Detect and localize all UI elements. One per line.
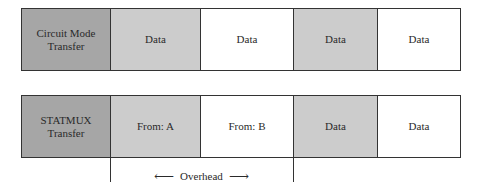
frame-cell: Data	[294, 9, 378, 70]
frame-cell: Data	[378, 9, 460, 70]
label-line: STATMUX	[40, 114, 91, 126]
row-label: STATMUXTransfer	[22, 96, 111, 157]
arrow-right-icon: ⟶	[229, 168, 249, 185]
arrow-left-icon: ⟵	[154, 168, 174, 185]
label-line: Circuit Mode	[37, 27, 96, 39]
label-line: Transfer	[48, 127, 85, 139]
overhead-label: Overhead	[180, 170, 223, 182]
frame-cell: Data	[378, 96, 460, 157]
frame-cell: Data	[201, 9, 294, 70]
circuit-mode-row: Circuit ModeTransfer Data Data Data Data	[21, 8, 461, 71]
frame-cell: From: A	[111, 96, 201, 157]
frame-cell: Data	[111, 9, 201, 70]
overhead-annotation: ⟵ Overhead ⟶	[110, 168, 293, 184]
frame-cell: Data	[294, 96, 378, 157]
statmux-row: STATMUXTransfer From: A From: B Data Dat…	[21, 95, 461, 158]
label-line: Transfer	[48, 40, 85, 52]
frame-cell: From: B	[201, 96, 294, 157]
overhead-right-bound	[293, 157, 294, 182]
row-label: Circuit ModeTransfer	[22, 9, 111, 70]
